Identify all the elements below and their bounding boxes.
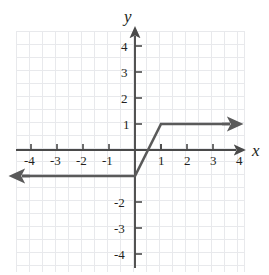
x-tick-label--2: -2 xyxy=(76,154,87,167)
y-tick-label--4: -4 xyxy=(114,248,125,261)
y-tick-label-1: 1 xyxy=(123,118,130,131)
x-tick-label--1: -1 xyxy=(102,154,113,167)
x-tick-label-4: 4 xyxy=(236,154,243,167)
y-tick-label-4: 4 xyxy=(121,40,128,53)
graph-figure: y x -4 -3 -2 -1 1 2 3 4 4 3 2 1 -2 -3 -4 xyxy=(0,0,269,275)
y-tick-label--2: -2 xyxy=(114,196,125,209)
x-tick-label--3: -3 xyxy=(50,154,61,167)
x-tick-label-3: 3 xyxy=(210,154,217,167)
y-tick-label-2: 2 xyxy=(121,92,128,105)
y-axis-label: y xyxy=(124,8,132,25)
grid-lines xyxy=(16,31,245,272)
y-tick-label--3: -3 xyxy=(114,222,125,235)
x-tick-label--4: -4 xyxy=(24,154,35,167)
x-axis-label: x xyxy=(252,142,260,159)
y-tick-label-3: 3 xyxy=(121,66,128,79)
x-tick-label-2: 2 xyxy=(184,154,191,167)
x-tick-label-1: 1 xyxy=(158,154,165,167)
coordinate-plane xyxy=(0,0,269,275)
